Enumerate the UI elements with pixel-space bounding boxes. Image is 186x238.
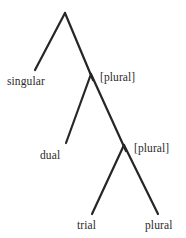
leaf-label-dual: dual bbox=[40, 150, 60, 162]
branch-plural-node-2-to-plural-leaf bbox=[124, 145, 158, 214]
feature-tree-figure: singular [plural] dual [plural] trial pl… bbox=[0, 0, 186, 238]
tree-branch-lines bbox=[0, 0, 186, 238]
branch-plural-node-1-to-dual bbox=[66, 74, 91, 143]
node-label-plural-2: [plural] bbox=[134, 143, 169, 155]
branch-root-to-singular bbox=[35, 13, 65, 70]
node-label-plural-1: [plural] bbox=[100, 72, 135, 84]
branch-plural-node-2-to-trial bbox=[92, 145, 124, 214]
leaf-label-trial: trial bbox=[77, 220, 96, 232]
leaf-label-plural: plural bbox=[145, 220, 172, 232]
branch-plural-node-1-to-plural-node-2 bbox=[91, 74, 126, 151]
leaf-label-singular: singular bbox=[7, 76, 45, 88]
branch-root-to-plural-node-1 bbox=[65, 13, 93, 80]
